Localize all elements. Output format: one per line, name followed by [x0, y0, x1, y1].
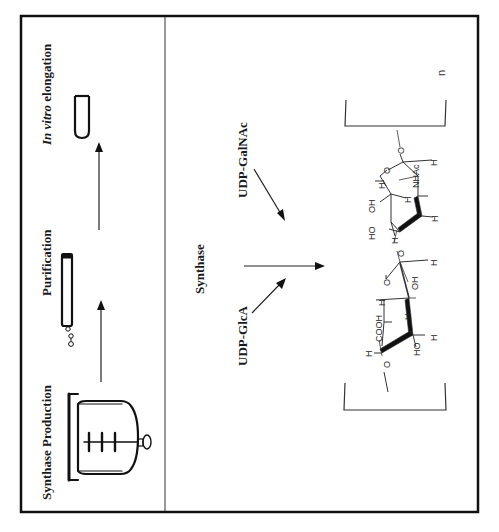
- substrate-label-udp-galnac: UDP-GalNAc: [235, 122, 250, 198]
- atom-glca-oh: OH: [410, 277, 420, 291]
- arrow-production-to-purification: [97, 300, 105, 382]
- atom-h: H: [429, 260, 439, 267]
- repeat-bracket-top: [345, 100, 446, 126]
- step-label-in-vitro-elongation: In vitro elongation: [39, 43, 54, 146]
- test-tube-icon: [75, 96, 89, 138]
- atom-labels: O H O NHAc H H OH H HO H O H O OH H H CO…: [364, 147, 440, 368]
- atom-h: H: [429, 160, 439, 167]
- step-label-purification: Purification: [39, 229, 54, 296]
- figure-canvas: Synthase Production Purification In vitr…: [0, 0, 499, 532]
- bioreactor-icon: [69, 394, 151, 480]
- repeat-bracket-bottom: [344, 383, 446, 410]
- atom-h: H: [364, 351, 374, 358]
- panel-synthesis-reaction: Synthase UDP-GlcA UDP-GalNAc n: [192, 70, 447, 410]
- atom-link-o: O: [396, 147, 406, 154]
- substrate-label-udp-glca: UDP-GlcA: [235, 305, 250, 366]
- atom-h: H: [430, 216, 440, 223]
- atom-h: H: [390, 238, 400, 245]
- atom-ring-o: O: [382, 167, 392, 174]
- atom-link-o: O: [396, 250, 406, 257]
- atom-h: H: [377, 300, 387, 307]
- chromatography-column-icon: [62, 254, 73, 346]
- panel-production-workflow: Synthase Production Purification In vitr…: [39, 43, 151, 500]
- atom-nhac: NHAc: [411, 164, 421, 188]
- arrow-purification-to-elongation: [95, 142, 103, 230]
- atom-h: H: [377, 183, 387, 190]
- arrow-udp-glca: [252, 278, 286, 313]
- enzyme-label-synthase: Synthase: [192, 244, 207, 294]
- repeat-subscript-n: n: [435, 70, 447, 76]
- arrow-udp-galnac: [254, 169, 285, 221]
- atom-galnac-oh: OH: [367, 200, 377, 214]
- atom-ring-o: O: [382, 279, 392, 286]
- atom-galnac-ho: HO: [367, 227, 377, 241]
- atom-h: H: [403, 197, 413, 204]
- step-label-synthase-production: Synthase Production: [39, 384, 54, 500]
- atom-link-o: O: [382, 361, 392, 368]
- arrow-synthase-to-product: [244, 262, 325, 270]
- atom-h: H: [403, 314, 413, 321]
- atom-glca-ho: HO: [412, 343, 422, 357]
- atom-h: H: [429, 335, 439, 342]
- atom-glca-cooh: COOH: [374, 315, 384, 342]
